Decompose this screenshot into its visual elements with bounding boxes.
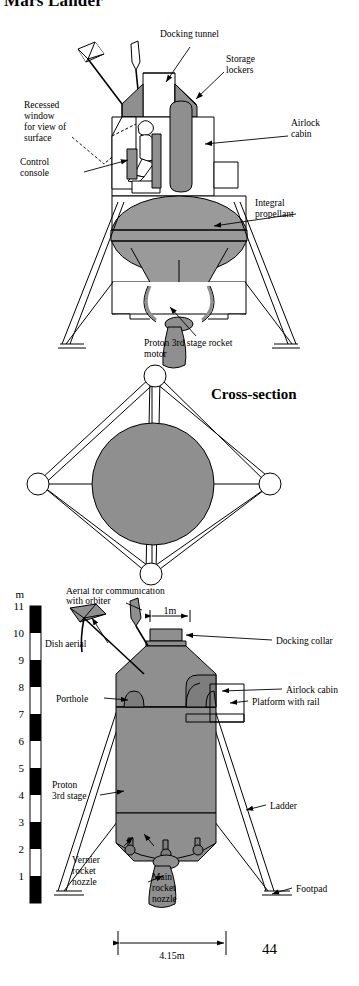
seat-shape	[152, 134, 161, 188]
scale-unit-label: m	[15, 588, 24, 600]
dimension-4p15m-label: 4.15m	[159, 950, 185, 961]
main-body-elevation	[116, 707, 216, 813]
label-main-nozzle-line3: nozzle	[152, 894, 177, 904]
footpad-bottom	[140, 563, 162, 585]
label-docking-collar: Docking collar	[276, 636, 334, 646]
scale-tick-8: 8	[19, 681, 25, 693]
label-proton-3rd-stage-line1: Proton	[52, 780, 78, 790]
label-storage-lockers-line2: lockers	[226, 65, 254, 75]
dimension-1m-label: 1m	[164, 605, 177, 616]
scale-tick-4: 4	[19, 789, 25, 801]
label-platform-with-rail: Platform with rail	[252, 697, 320, 707]
label-control-console-line1: Control	[20, 157, 49, 167]
cross-section-body	[92, 423, 214, 545]
label-proton-motor-line2: motor	[144, 349, 168, 359]
label-storage-lockers-line1: Storage	[226, 54, 255, 64]
aerial-comm-elevation	[130, 598, 148, 646]
label-main-nozzle-line1: Main	[152, 872, 172, 882]
label-integral-propellant-line2: propellant	[255, 209, 294, 219]
label-vernier-line3: nozzle	[72, 877, 97, 887]
footpad-top	[144, 365, 166, 387]
label-vernier-line2: rocket	[72, 866, 96, 876]
label-dish-aerial: Dish aerial	[45, 639, 87, 649]
label-integral-propellant-line1: Integral	[255, 198, 285, 208]
figure-scale-elevation: m 11 10 9 8 7 6 5 4 3 2 1	[0, 588, 359, 986]
scale-tick-7: 7	[19, 708, 25, 720]
label-recessed-window-line3: for view of	[24, 122, 67, 132]
cross-section-title: Cross-section	[211, 386, 297, 403]
label-airlock-cabin-elev: Airlock cabin	[286, 685, 338, 695]
label-control-console-line2: console	[20, 168, 49, 178]
hull-skirt-shape	[112, 282, 246, 319]
label-airlock-cabin-line1: Airlock	[291, 118, 320, 128]
label-recessed-window-line2: window	[24, 111, 55, 121]
page-title: Mars Lander	[4, 0, 103, 11]
scale-tick-10: 10	[13, 627, 25, 639]
label-footpad: Footpad	[296, 884, 327, 894]
docking-collar-shape	[150, 629, 182, 641]
scale-tick-11: 11	[13, 600, 24, 612]
page-canvas: Mars Lander	[0, 0, 359, 986]
scale-tick-6: 6	[19, 735, 25, 747]
label-ladder: Ladder	[270, 801, 298, 811]
label-aerial-comm-line1: Aerial for communication	[66, 588, 165, 596]
figure-cross-section	[0, 362, 359, 592]
scale-tick-3: 3	[19, 816, 25, 828]
airlock-cabin-shape	[170, 101, 192, 192]
label-main-nozzle-line2: rocket	[152, 883, 176, 893]
label-porthole: Porthole	[56, 694, 88, 704]
label-aerial-comm-line2: with orbiter	[66, 596, 111, 606]
label-proton-3rd-stage-line2: 3rd stage	[52, 791, 87, 801]
storage-locker-box	[214, 162, 238, 188]
scale-tick-9: 9	[19, 654, 25, 666]
label-recessed-window-line1: Recessed	[24, 100, 60, 110]
footpad-right	[259, 473, 281, 495]
scale-bar	[30, 606, 41, 903]
figure-lander-cutaway: Docking tunnel Storage lockers Airlock c…	[0, 14, 359, 374]
label-docking-tunnel: Docking tunnel	[160, 29, 219, 39]
scale-tick-1: 1	[19, 870, 25, 882]
scale-tick-5: 5	[19, 762, 25, 774]
dish-aerial-icon	[78, 42, 122, 104]
page-number: 44	[262, 941, 277, 958]
footpad-left	[27, 473, 49, 495]
scale-tick-labels: m 11 10 9 8 7 6 5 4 3 2 1	[13, 588, 25, 882]
scale-tick-2: 2	[19, 843, 25, 855]
label-proton-motor-line1: Proton 3rd stage rocket	[144, 338, 233, 348]
label-recessed-window-line4: surface	[24, 133, 51, 143]
label-airlock-cabin-line2: cabin	[291, 129, 312, 139]
label-vernier-line1: Vernier	[72, 855, 101, 865]
